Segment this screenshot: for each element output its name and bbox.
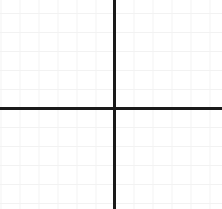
grid-layer: [0, 0, 222, 209]
y-axis: [113, 0, 116, 209]
grid-horizontal-lines: [0, 0, 222, 209]
cartesian-coordinate-grid: [0, 0, 222, 209]
x-axis: [0, 107, 222, 110]
grid-vertical-lines: [0, 0, 222, 209]
